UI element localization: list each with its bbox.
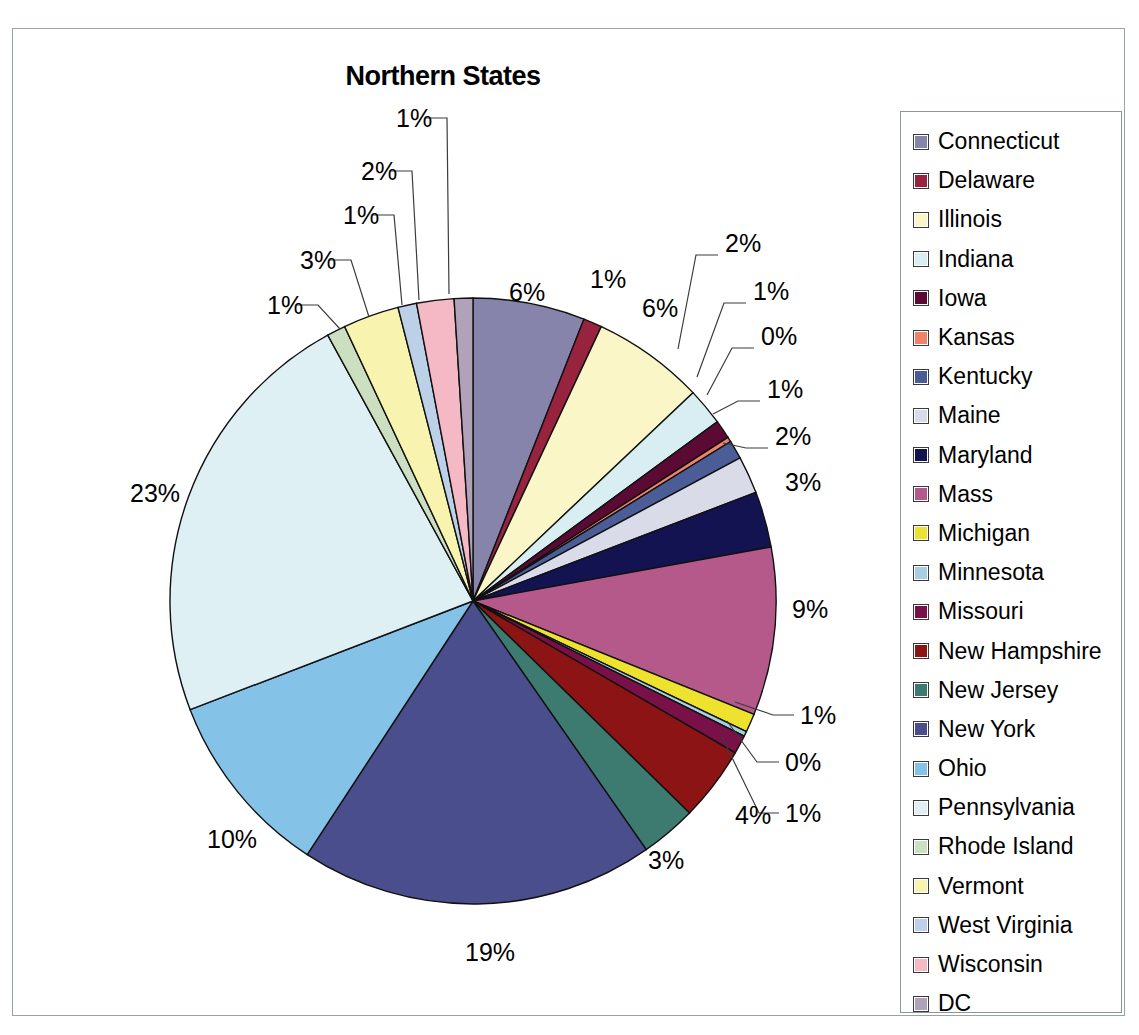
pie-percent-label: 1% <box>396 106 432 131</box>
legend-item[interactable]: West Virginia <box>913 906 1121 945</box>
legend-item-label: DC <box>938 992 971 1015</box>
legend-item[interactable]: Missouri <box>913 592 1121 631</box>
legend-item[interactable]: Kansas <box>913 318 1121 357</box>
legend-item-label: Missouri <box>938 600 1024 623</box>
legend-swatch-icon <box>913 761 929 777</box>
legend-swatch-icon <box>913 565 929 581</box>
pie-percent-label: 9% <box>792 597 828 622</box>
leader-line <box>713 401 760 414</box>
legend-item-label: Indiana <box>938 248 1013 271</box>
pie-percent-label: 1% <box>767 377 803 402</box>
pie-chart-area: 6%1%6%2%1%0%1%2%3%9%1%0%1%4%3%19%10%23%1… <box>13 29 893 1017</box>
legend-item[interactable]: Wisconsin <box>913 945 1121 984</box>
legend-item-label: New Hampshire <box>938 640 1102 663</box>
legend-item[interactable]: New Jersey <box>913 671 1121 710</box>
legend-item-label: Iowa <box>938 287 987 310</box>
pie-slices <box>170 298 776 904</box>
legend-item[interactable]: Michigan <box>913 514 1121 553</box>
legend-item[interactable]: Maine <box>913 396 1121 435</box>
legend-item[interactable]: Delaware <box>913 161 1121 200</box>
legend-item[interactable]: DC <box>913 984 1121 1023</box>
legend-item[interactable]: Pennsylvania <box>913 788 1121 827</box>
legend-item-label: Minnesota <box>938 561 1044 584</box>
legend-item[interactable]: New York <box>913 710 1121 749</box>
legend-item-label: Michigan <box>938 522 1030 545</box>
legend-swatch-icon <box>913 957 929 973</box>
leader-line <box>697 303 746 377</box>
legend-item[interactable]: Indiana <box>913 240 1121 279</box>
legend-swatch-icon <box>913 173 929 189</box>
leader-line <box>390 171 419 300</box>
legend-item[interactable]: Rhode Island <box>913 827 1121 866</box>
legend-item[interactable]: Connecticut <box>913 122 1121 161</box>
legend-swatch-icon <box>913 800 929 816</box>
pie-svg <box>13 29 893 1017</box>
legend-swatch-icon <box>913 251 929 267</box>
legend-swatch-icon <box>913 604 929 620</box>
legend-swatch-icon <box>913 447 929 463</box>
legend-swatch-icon <box>913 996 929 1012</box>
pie-percent-label: 0% <box>761 324 797 349</box>
pie-percent-label: 3% <box>785 470 821 495</box>
pie-percent-label: 19% <box>465 940 515 965</box>
legend-item-label: Kentucky <box>938 365 1033 388</box>
legend-swatch-icon <box>913 408 929 424</box>
legend-item-label: Kansas <box>938 326 1015 349</box>
legend-item-label: Vermont <box>938 875 1024 898</box>
legend-swatch-icon <box>913 643 929 659</box>
legend-item[interactable]: Ohio <box>913 749 1121 788</box>
legend-item[interactable]: Kentucky <box>913 357 1121 396</box>
pie-percent-label: 6% <box>509 280 545 305</box>
chart-frame: Northern States 6%1%6%2%1%0%1%2%3%9%1%0%… <box>12 28 1125 1016</box>
pie-percent-label: 2% <box>361 159 397 184</box>
legend-item-label: Wisconsin <box>938 953 1043 976</box>
pie-percent-label: 1% <box>800 703 836 728</box>
pie-percent-label: 1% <box>785 801 821 826</box>
legend-swatch-icon <box>913 330 929 346</box>
pie-percent-label: 2% <box>775 424 811 449</box>
legend-item[interactable]: Minnesota <box>913 553 1121 592</box>
legend-item[interactable]: Illinois <box>913 200 1121 239</box>
legend-item-label: Ohio <box>938 757 987 780</box>
legend-item[interactable]: Maryland <box>913 436 1121 475</box>
legend-item-label: New Jersey <box>938 679 1058 702</box>
legend-item-label: Pennsylvania <box>938 796 1075 819</box>
pie-percent-label: 10% <box>207 827 257 852</box>
legend-swatch-icon <box>913 486 929 502</box>
legend-swatch-icon <box>913 369 929 385</box>
legend: ConnecticutDelawareIllinoisIndianaIowaKa… <box>900 111 1122 1013</box>
legend-item-label: Illinois <box>938 208 1002 231</box>
legend-item-label: Maine <box>938 404 1001 427</box>
legend-item-label: West Virginia <box>938 914 1073 937</box>
legend-swatch-icon <box>913 721 929 737</box>
legend-swatch-icon <box>913 212 929 228</box>
legend-swatch-icon <box>913 917 929 933</box>
pie-percent-label: 3% <box>648 848 684 873</box>
pie-percent-label: 6% <box>642 296 678 321</box>
legend-item-label: Connecticut <box>938 130 1059 153</box>
legend-swatch-icon <box>913 525 929 541</box>
legend-swatch-icon <box>913 290 929 306</box>
legend-item[interactable]: Vermont <box>913 867 1121 906</box>
leader-line <box>707 348 754 395</box>
pie-percent-label: 23% <box>130 481 180 506</box>
legend-item-label: Mass <box>938 483 993 506</box>
pie-percent-label: 1% <box>343 203 379 228</box>
legend-swatch-icon <box>913 878 929 894</box>
legend-item[interactable]: Iowa <box>913 279 1121 318</box>
legend-item[interactable]: Mass <box>913 475 1121 514</box>
leader-line <box>425 118 449 294</box>
pie-percent-label: 1% <box>590 267 626 292</box>
pie-percent-label: 1% <box>753 279 789 304</box>
legend-item-label: Maryland <box>938 444 1033 467</box>
pie-percent-label: 4% <box>735 803 771 828</box>
legend-swatch-icon <box>913 134 929 150</box>
legend-item-label: Delaware <box>938 169 1035 192</box>
pie-percent-label: 1% <box>267 293 303 318</box>
pie-percent-label: 2% <box>725 231 761 256</box>
pie-percent-label: 3% <box>300 248 336 273</box>
legend-swatch-icon <box>913 839 929 855</box>
legend-item-label: Rhode Island <box>938 835 1074 858</box>
legend-item[interactable]: New Hampshire <box>913 631 1121 670</box>
legend-swatch-icon <box>913 682 929 698</box>
